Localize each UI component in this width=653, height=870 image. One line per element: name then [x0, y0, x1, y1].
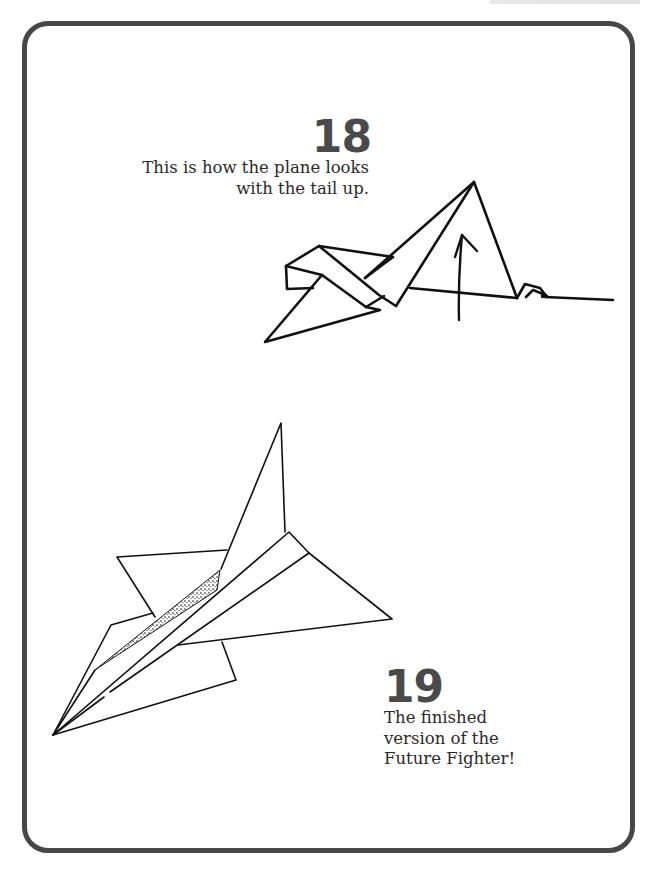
fuselage-line: [410, 288, 517, 298]
finished-future-fighter-diagram: [53, 423, 392, 735]
nose-chine: [53, 670, 95, 735]
nose-fold-inner: [526, 290, 543, 297]
cockpit-speckle: [95, 570, 220, 670]
plane-with-tail-up-diagram: [265, 182, 613, 342]
fuselage-fold-lower: [53, 697, 104, 735]
fold-up-arrow-shaft: [459, 235, 462, 320]
left-wing: [53, 613, 153, 735]
wing-tail-junction-lower: [366, 296, 384, 307]
vertical-tail-fin: [221, 423, 285, 569]
nose-extension-line: [545, 297, 613, 300]
tail-fin-back-edge: [365, 182, 474, 278]
fuselage-fold: [110, 553, 309, 692]
fold-up-arrow-head: [455, 235, 477, 257]
wing-inner-fold: [286, 266, 366, 307]
wing-tail-junction: [365, 257, 393, 278]
illustrations: [0, 0, 653, 870]
lower-wing-triangle: [265, 275, 380, 342]
